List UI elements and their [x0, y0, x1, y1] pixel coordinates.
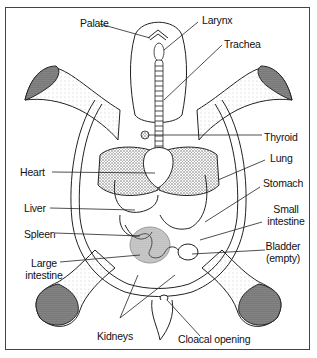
- label-kidneys: Kidneys: [97, 330, 133, 342]
- label-small-intestine: Small intestine: [266, 203, 306, 227]
- label-heart: Heart: [20, 166, 45, 178]
- label-thyroid: Thyroid: [264, 131, 298, 143]
- label-bladder: Bladder (empty): [258, 240, 308, 264]
- label-liver: Liver: [24, 202, 46, 214]
- label-stomach: Stomach: [263, 177, 303, 189]
- label-trachea: Trachea: [224, 38, 261, 50]
- front-right-flipper: [197, 66, 292, 140]
- label-larynx: Larynx: [202, 14, 232, 26]
- label-spleen: Spleen: [24, 228, 56, 240]
- label-lung: Lung: [270, 152, 293, 164]
- label-large-intestine: Large intestine: [24, 257, 64, 281]
- label-cloacal-opening: Cloacal opening: [178, 333, 250, 345]
- front-left-flipper: [25, 66, 120, 140]
- label-palate: Palate: [80, 17, 109, 29]
